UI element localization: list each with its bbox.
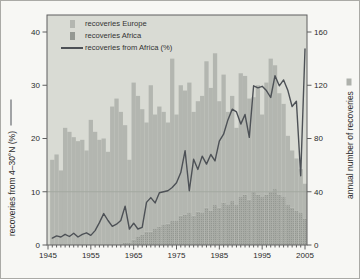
bar-europe <box>63 128 67 245</box>
bar-africa <box>170 221 174 245</box>
bar-europe <box>106 152 110 245</box>
bar-africa <box>136 237 140 245</box>
bar-africa <box>281 197 285 245</box>
bar-europe <box>76 141 80 245</box>
bar-africa <box>256 194 260 245</box>
bar-africa <box>204 208 208 245</box>
right-tick-label: 160 <box>314 28 328 37</box>
bar-europe <box>234 128 238 205</box>
bar-europe <box>286 136 290 205</box>
bar-africa <box>269 192 273 245</box>
left-tick-label: 0 <box>36 241 41 250</box>
bar-africa <box>234 205 238 245</box>
x-tick-label: 1965 <box>125 251 143 260</box>
bar-europe <box>239 73 243 197</box>
bar-africa <box>217 208 221 245</box>
right-tick-label: 120 <box>314 81 328 90</box>
bar-europe <box>59 170 63 245</box>
bar-europe <box>67 132 71 245</box>
bar-africa <box>264 194 268 245</box>
bar-europe <box>277 93 281 194</box>
bar-europe <box>204 61 208 207</box>
bar-europe <box>127 160 131 243</box>
bar-europe <box>264 83 268 195</box>
bar-africa <box>153 229 157 245</box>
bar-europe <box>97 140 101 245</box>
bar-series-glyph-icon <box>347 78 352 85</box>
left-axis-label: recoveries from 4–30°N (%) <box>4 88 19 248</box>
left-axis-ticks: 010203040 <box>31 28 47 250</box>
right-tick-label: 80 <box>314 134 323 143</box>
x-axis-ticks: 1945195519651975198519952005 <box>39 245 314 260</box>
x-tick-label: 1955 <box>82 251 100 260</box>
bar-europe <box>213 53 217 205</box>
left-tick-label: 20 <box>31 134 40 143</box>
recoveries-figure: 1945195519651975198519952005010203040040… <box>0 0 360 279</box>
bar-europe <box>144 123 148 232</box>
bar-africa <box>183 214 187 245</box>
legend-item-africa-percent: recoveries from Africa (%) <box>59 42 172 53</box>
bar-europe <box>54 154 58 245</box>
x-tick-label: 1985 <box>210 251 228 260</box>
bar-africa <box>273 189 277 245</box>
bar-europe <box>119 112 123 245</box>
bar-europe <box>136 96 140 237</box>
bar-africa <box>196 212 200 245</box>
bar-africa <box>294 210 298 245</box>
right-axis-label: annual number of recoveries <box>342 54 357 224</box>
bar-europe <box>294 158 298 210</box>
bar-europe <box>256 85 260 194</box>
bar-europe <box>187 83 191 213</box>
bar-europe <box>290 150 294 207</box>
bar-europe <box>153 115 157 229</box>
bar-africa <box>157 226 161 245</box>
legend-label-africa: recoveries Africa <box>85 30 141 41</box>
bar-europe <box>50 160 54 245</box>
bar-africa <box>221 202 225 245</box>
bar-africa <box>286 205 290 245</box>
bar-africa <box>187 213 191 245</box>
right-tick-label: 40 <box>314 188 323 197</box>
bar-africa <box>191 216 195 245</box>
bar-europe <box>260 115 264 198</box>
left-tick-label: 40 <box>31 28 40 37</box>
recoveries-chart: 1945195519651975198519952005010203040040… <box>1 1 360 279</box>
bar-africa <box>213 205 217 245</box>
bar-africa <box>243 194 247 245</box>
bar-europe <box>200 96 204 213</box>
bar-africa <box>230 201 234 245</box>
bar-europe <box>179 85 183 215</box>
bar-africa <box>247 200 251 245</box>
bar-africa <box>140 234 144 245</box>
bar-europe <box>196 101 200 211</box>
europe-bar-swatch-icon <box>70 20 75 28</box>
bar-africa <box>132 240 136 245</box>
bar-africa <box>149 232 153 245</box>
africa-bar-swatch-icon <box>70 32 75 40</box>
bar-europe <box>84 150 88 245</box>
bar-africa <box>239 197 243 245</box>
bar-europe <box>174 115 178 222</box>
bar-europe <box>89 120 93 245</box>
bar-europe <box>123 125 127 242</box>
bar-europe <box>149 85 153 231</box>
x-tick-label: 1945 <box>39 251 57 260</box>
bar-africa <box>251 192 255 245</box>
x-tick-label: 1975 <box>168 251 186 260</box>
bar-europe <box>281 104 285 197</box>
bar-africa <box>174 221 178 245</box>
bar-africa <box>303 218 307 245</box>
bar-europe <box>303 184 307 219</box>
bar-africa <box>299 213 303 245</box>
bar-africa <box>290 208 294 245</box>
bar-africa <box>179 216 183 245</box>
bar-europe <box>162 112 166 225</box>
bar-africa <box>226 205 230 245</box>
line-series-glyph-icon <box>11 99 12 125</box>
bar-europe <box>166 123 170 224</box>
left-tick-label: 10 <box>31 188 40 197</box>
legend-label-africa-percent: recoveries from Africa (%) <box>85 42 172 53</box>
bar-europe <box>221 75 225 203</box>
x-tick-label: 1995 <box>253 251 271 260</box>
bar-africa <box>209 210 213 245</box>
